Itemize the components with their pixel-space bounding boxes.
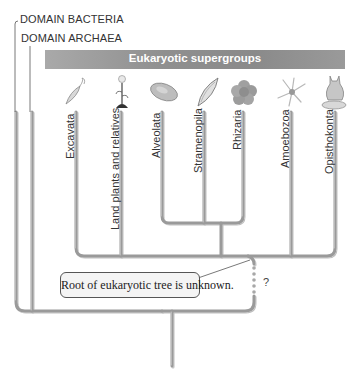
- clade-label-amoebozoa: Amoebozoa: [279, 109, 291, 168]
- supergroups-banner: Eukaryotic supergroups: [45, 50, 345, 69]
- domain-bacteria-label: DOMAIN BACTERIA: [20, 13, 124, 25]
- clade-label-excavata: Excavata: [64, 114, 76, 159]
- root-unknown-callout: Root of eukaryotic tree is unknown.: [60, 272, 200, 298]
- clade-label-alveolata: Alveolata: [150, 113, 162, 158]
- domain-archaea-label: DOMAIN ARCHAEA: [21, 32, 122, 44]
- amoeba-icon: [275, 76, 309, 108]
- branch-root-bar: [162, 296, 254, 311]
- clade-label-stramenopila: Stramenopila: [192, 108, 204, 173]
- clade-label-rhizaria: Rhizaria: [231, 110, 243, 150]
- clade-label-land-plants: Land plants and relatives: [109, 108, 121, 230]
- clade-label-opisthokonta: Opisthokonta: [323, 109, 335, 174]
- diatom-icon: [195, 76, 221, 108]
- plant-icon: [112, 74, 132, 110]
- banner-title: Eukaryotic supergroups: [45, 52, 345, 64]
- bacteria-label-connector: [15, 21, 18, 112]
- callout-pointer: [198, 260, 250, 278]
- flagellate-icon: [62, 76, 88, 108]
- foraminifera-icon: [230, 78, 258, 106]
- cat-mushroom-icon: [320, 72, 350, 110]
- eukaryotic-tree-diagram: DOMAIN BACTERIA DOMAIN ARCHAEA Eukaryoti…: [0, 0, 362, 380]
- uncertain-root-dots: [252, 266, 256, 294]
- uncertainty-question-mark: ?: [263, 276, 269, 288]
- ciliate-icon: [148, 80, 180, 104]
